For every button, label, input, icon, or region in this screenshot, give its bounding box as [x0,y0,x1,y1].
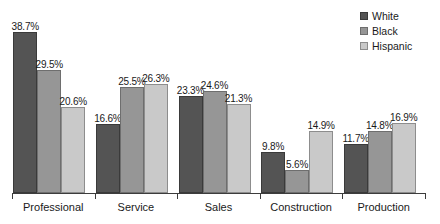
x-axis-tick [177,193,178,199]
bar-value-label: 9.8% [262,141,284,152]
x-axis-category-label: Construction [260,201,343,214]
legend-swatch-hispanic-icon [360,42,368,50]
bar: 23.3% [179,96,203,193]
legend-swatch-black-icon [360,27,368,35]
bar: 38.7% [13,32,37,193]
bar: 20.6% [61,107,85,193]
bar: 16.6% [96,124,120,193]
x-axis-category-label: Production [342,201,425,214]
bar-value-label: 21.3% [225,93,252,104]
x-axis-category-label: Sales [177,201,260,214]
bar-value-label: 24.6% [201,80,228,91]
x-axis-category-label: Professional [12,201,95,214]
legend-label-hispanic: Hispanic [372,40,412,52]
bar: 14.8% [368,131,392,193]
x-axis-tick [95,193,96,199]
bar: 11.7% [344,144,368,193]
x-axis-tick [260,193,261,199]
bar: 26.3% [144,84,168,193]
legend-swatch-white-icon [360,12,368,20]
bar: 29.5% [37,70,61,193]
bar-value-label: 11.7% [342,133,369,144]
bar-value-label: 14.9% [307,120,334,131]
bar-value-label: 26.3% [142,73,169,84]
bar: 5.6% [285,170,309,193]
bar: 25.5% [120,87,144,193]
bar-group: 9.8%5.6%14.9% [261,0,333,193]
legend-label-white: White [372,10,399,22]
bar: 9.8% [261,152,285,193]
bar-value-label: 16.9% [390,112,417,123]
bar: 14.9% [309,131,333,193]
bar-group: 16.6%25.5%26.3% [96,0,168,193]
x-axis-line [12,193,425,194]
bar-value-label: 16.6% [94,113,121,124]
legend-item-black: Black [360,25,412,37]
bar-value-label: 29.5% [36,59,63,70]
legend-item-hispanic: Hispanic [360,40,412,52]
bar-group: 23.3%24.6%21.3% [179,0,251,193]
x-axis-tick [425,193,426,199]
x-axis-category-label: Service [95,201,178,214]
bar-value-label: 38.7% [12,21,39,32]
legend-item-white: White [360,10,412,22]
chart-legend: White Black Hispanic [360,10,412,52]
bar-value-label: 20.6% [60,96,87,107]
bar: 24.6% [203,91,227,193]
bar-group: 38.7%29.5%20.6% [13,0,85,193]
grouped-bar-chart: 38.7%29.5%20.6%16.6%25.5%26.3%23.3%24.6%… [0,0,440,224]
bar: 21.3% [227,104,251,193]
x-axis-tick [12,193,13,199]
x-axis-tick [342,193,343,199]
legend-label-black: Black [372,25,398,37]
bar: 16.9% [392,123,416,193]
bar-value-label: 5.6% [286,159,308,170]
